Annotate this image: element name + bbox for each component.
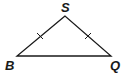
vertex-label-b: B bbox=[5, 58, 14, 73]
triangle-sbq bbox=[17, 16, 111, 56]
vertex-label-q: Q bbox=[110, 58, 120, 73]
triangle-diagram: S B Q bbox=[0, 0, 127, 73]
vertex-label-s: S bbox=[61, 0, 70, 15]
